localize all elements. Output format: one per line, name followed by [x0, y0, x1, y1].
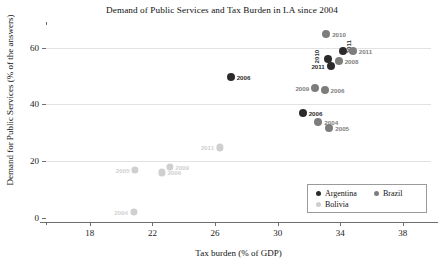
y-tick-mark: [42, 161, 46, 162]
data-point: [335, 57, 343, 65]
data-point: [311, 84, 319, 92]
data-point: [349, 47, 357, 55]
data-point-label: 2005: [335, 124, 349, 131]
data-point: [158, 169, 165, 176]
data-point-label: 2011: [201, 144, 214, 151]
data-point-label: 2009: [295, 84, 309, 91]
x-tick-label: 22: [148, 228, 157, 238]
y-tick-mark: [42, 48, 46, 49]
x-tick-mark: [152, 222, 153, 226]
gridline: [46, 161, 431, 162]
data-point-label: 2011: [311, 63, 324, 70]
data-point: [299, 109, 307, 117]
x-tick-mark: [278, 222, 279, 226]
legend-swatch-icon: [374, 191, 379, 196]
data-point: [216, 144, 223, 151]
data-point-label: 2011: [359, 48, 372, 55]
data-point-label: 2005: [116, 167, 130, 174]
y-tick-mark: [42, 218, 46, 219]
data-point-label: 2008: [345, 58, 359, 65]
x-tick-label: 18: [85, 228, 94, 238]
data-point: [314, 118, 322, 126]
scatter-chart-figure: Demand of Public Services and Tax Burden…: [0, 0, 444, 270]
legend-label: Argentina: [325, 189, 357, 198]
legend-label: Brazil: [383, 189, 403, 198]
x-tick-label: 30: [273, 228, 282, 238]
legend-label: Bolivia: [325, 200, 349, 209]
y-tick-label: 40: [30, 99, 39, 109]
data-point: [325, 124, 333, 132]
data-point-label: 2006: [309, 110, 323, 117]
data-point-label: 2009: [175, 164, 189, 171]
legend-item-bolivia[interactable]: Bolivia: [316, 200, 349, 209]
legend-item-brazil[interactable]: Brazil: [374, 189, 403, 198]
data-point-label: 2004: [114, 209, 128, 216]
x-tick-label: 26: [211, 228, 220, 238]
y-tick-label: 0: [35, 213, 40, 223]
data-point-label: 2006: [237, 74, 251, 81]
x-tick-mark: [215, 222, 216, 226]
x-tick-mark: [403, 222, 404, 226]
data-point-label: 2010: [332, 31, 346, 38]
x-axis-spine: [40, 222, 438, 223]
x-tick-mark: [90, 222, 91, 226]
legend-item-argentina[interactable]: Argentina: [316, 189, 357, 198]
legend-swatch-icon: [316, 191, 321, 196]
data-point: [321, 86, 329, 94]
gridline: [46, 104, 431, 105]
data-point-label: 2010: [312, 50, 319, 64]
y-tick-label: 20: [30, 156, 39, 166]
y-axis-title: Demand for Public Services (% of the ans…: [5, 0, 15, 200]
x-axis-title: Tax burden (% of GDP): [46, 248, 431, 258]
gridline: [46, 48, 431, 49]
x-tick-label: 38: [398, 228, 407, 238]
data-point: [132, 167, 139, 174]
data-point-label: 2006: [331, 87, 345, 94]
x-tick-mark: [340, 222, 341, 226]
data-point: [130, 208, 137, 215]
legend: ArgentinaBrazilBolivia: [307, 184, 427, 213]
chart-title: Demand of Public Services and Tax Burden…: [0, 5, 444, 15]
legend-swatch-icon: [316, 202, 321, 207]
data-point: [227, 73, 235, 81]
y-tick-label: 60: [30, 43, 39, 53]
x-tick-label: 34: [336, 228, 345, 238]
data-point: [327, 62, 335, 70]
y-tick-mark: [42, 104, 46, 105]
data-point: [322, 30, 330, 38]
